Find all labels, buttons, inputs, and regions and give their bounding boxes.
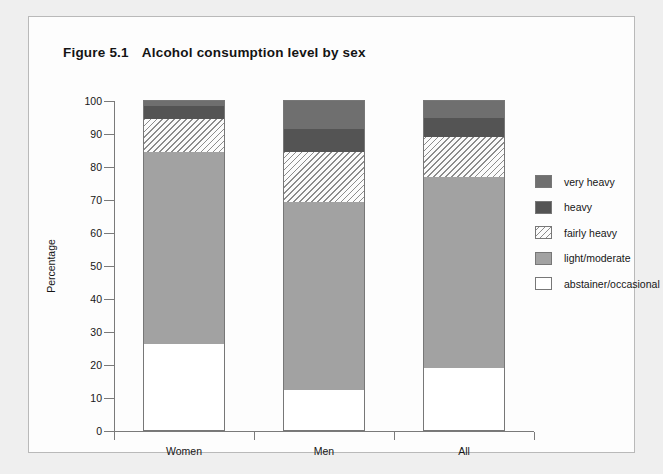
legend-item[interactable]: abstainer/occasional xyxy=(535,271,663,297)
legend-label: abstainer/occasional xyxy=(564,278,660,290)
legend-item[interactable]: light/moderate xyxy=(535,246,663,272)
legend-label: heavy xyxy=(564,201,592,213)
y-axis-tick-label: 40 xyxy=(90,293,102,305)
x-axis-tick xyxy=(254,432,255,440)
y-axis-tick xyxy=(104,101,114,102)
bar-segment[interactable] xyxy=(143,151,225,343)
bar-segment[interactable] xyxy=(423,367,505,431)
figure-page: Figure 5.1Alcohol consumption level by s… xyxy=(0,0,663,474)
y-axis-tick xyxy=(104,266,114,267)
y-axis-tick-label: 60 xyxy=(90,227,102,239)
legend-item[interactable]: very heavy xyxy=(535,169,663,195)
x-axis-category-label: Men xyxy=(314,445,334,457)
y-axis-tick xyxy=(104,332,114,333)
figure-title: Figure 5.1Alcohol consumption level by s… xyxy=(63,45,366,60)
stacked-bar[interactable] xyxy=(423,101,505,431)
bar-segment[interactable] xyxy=(143,343,225,431)
legend-swatch xyxy=(535,201,552,214)
chart-plot-area: Percentage 0102030405060708090100 WomenM… xyxy=(84,87,604,447)
y-axis-tick-label: 100 xyxy=(84,95,102,107)
legend-label: very heavy xyxy=(564,176,615,188)
bar-segment[interactable] xyxy=(423,117,505,138)
figure-title-text: Alcohol consumption level by sex xyxy=(142,45,366,60)
figure-number: Figure 5.1 xyxy=(63,45,129,60)
y-axis-tick-label: 50 xyxy=(90,260,102,272)
x-axis-tick xyxy=(394,432,395,440)
bar-segment[interactable] xyxy=(143,118,225,152)
x-axis-category-label: All xyxy=(458,445,470,457)
bar-segment[interactable] xyxy=(423,100,505,118)
bar-segment[interactable] xyxy=(143,105,225,119)
x-axis-tick xyxy=(114,432,115,440)
y-axis-tick xyxy=(104,299,114,300)
stacked-bars-layer xyxy=(114,101,534,431)
legend-swatch xyxy=(535,252,552,265)
y-axis-tick xyxy=(104,200,114,201)
legend-swatch xyxy=(535,277,552,290)
bar-segment[interactable] xyxy=(283,100,365,129)
bar-segment[interactable] xyxy=(423,136,505,177)
bar-segment[interactable] xyxy=(283,128,365,152)
y-axis-tick xyxy=(104,365,114,366)
y-axis-tick-label: 90 xyxy=(90,128,102,140)
y-axis-tick xyxy=(104,398,114,399)
y-axis-tick-label: 0 xyxy=(96,425,102,437)
bar-segment[interactable] xyxy=(283,389,365,431)
y-axis-tick xyxy=(104,233,114,234)
bar-segment[interactable] xyxy=(143,100,225,106)
y-axis-tick-label: 20 xyxy=(90,359,102,371)
legend-label: light/moderate xyxy=(564,252,631,264)
legend-item[interactable]: heavy xyxy=(535,195,663,221)
y-axis-tick xyxy=(104,134,114,135)
x-axis-tick xyxy=(534,432,535,440)
y-axis-tick-label: 10 xyxy=(90,392,102,404)
legend-item[interactable]: fairly heavy xyxy=(535,220,663,246)
y-axis-tick xyxy=(104,431,114,432)
y-axis-tick-label: 70 xyxy=(90,194,102,206)
y-axis-tick-label: 80 xyxy=(90,161,102,173)
stacked-bar[interactable] xyxy=(143,101,225,431)
y-axis-tick-label: 30 xyxy=(90,326,102,338)
stacked-bar[interactable] xyxy=(283,101,365,431)
bar-segment[interactable] xyxy=(283,201,365,390)
x-axis-line xyxy=(114,431,534,432)
legend-swatch xyxy=(535,175,552,188)
chart-legend: very heavyheavyfairly heavylight/moderat… xyxy=(535,169,663,297)
bar-segment[interactable] xyxy=(283,151,365,202)
bar-segment[interactable] xyxy=(423,176,505,368)
x-axis-category-label: Women xyxy=(166,445,202,457)
legend-label: fairly heavy xyxy=(564,227,617,239)
y-axis-title: Percentage xyxy=(45,239,57,293)
figure-panel: Figure 5.1Alcohol consumption level by s… xyxy=(28,16,635,453)
legend-swatch xyxy=(535,226,552,239)
y-axis-tick xyxy=(104,167,114,168)
